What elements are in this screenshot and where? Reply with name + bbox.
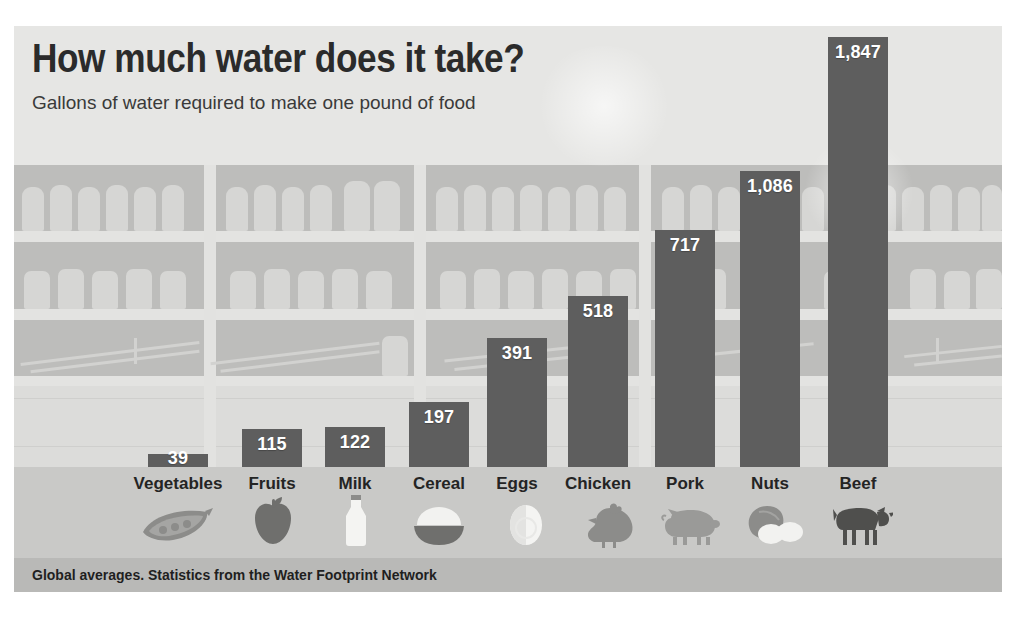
- photo-highlight-glow-2: [534, 46, 674, 166]
- shelf-edge-2: [14, 309, 1002, 320]
- bottle-group-row-2: [14, 266, 1002, 309]
- photo-floor-line-2: [14, 446, 1002, 447]
- page-subtitle: Gallons of water required to make one po…: [32, 92, 476, 114]
- photo-floor-line-1: [14, 398, 1002, 399]
- photo-highlight-glow: [804, 136, 914, 246]
- page-title: How much water does it take?: [32, 36, 524, 80]
- crate-group-row-3: [14, 326, 1002, 376]
- water-footprint-infographic: How much water does it take? Gallons of …: [0, 0, 1012, 618]
- shelf-edge-3: [14, 376, 1002, 386]
